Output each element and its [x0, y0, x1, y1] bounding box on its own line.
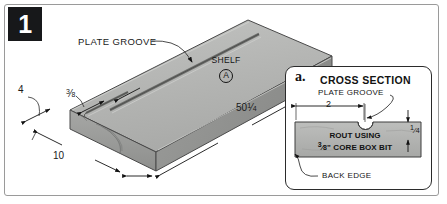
shelf-callout: SHELF A	[205, 56, 247, 83]
length-numerator: 1	[247, 102, 251, 109]
back-edge-label: BACK EDGE	[322, 171, 371, 180]
rout-line-1: ROUT USING	[329, 131, 380, 140]
dimension-label-length: 501⁄4	[236, 97, 257, 115]
rout-instruction: ROUT USING 3⁄8" CORE BOX BIT	[300, 131, 410, 153]
cross-section-plate-groove-label: PLATE GROOVE	[318, 88, 384, 97]
step-number-badge: 1	[8, 7, 42, 41]
bit-numerator: 3	[318, 141, 322, 148]
dimension-label-thickness: 4	[18, 84, 24, 95]
quarter-numerator: 1	[410, 124, 414, 131]
length-whole: 50	[236, 102, 247, 113]
woodworking-step-figure: 1 PLATE GROOVE SHELF A 4 3⁄8 501⁄4 10 a.…	[0, 0, 447, 204]
groove-offset-denominator: 8	[72, 91, 76, 98]
groove-offset-numerator: 3	[66, 88, 70, 95]
cross-section-groove-leader	[365, 95, 393, 122]
dimension-label-width: 10	[53, 150, 64, 161]
quarter-denominator: 4	[416, 127, 420, 134]
cross-section-artwork	[0, 0, 447, 204]
shelf-label: SHELF	[205, 56, 247, 65]
cross-section-quarter-label: 1⁄4	[410, 124, 420, 135]
plate-groove-label: PLATE GROOVE	[78, 36, 157, 47]
length-denominator: 4	[253, 105, 257, 112]
shelf-key-circle: A	[219, 69, 233, 83]
dimension-label-groove-offset: 3⁄8	[66, 83, 75, 101]
cross-section-dimension-2-label: 2	[326, 99, 331, 109]
rout-line-2-rest: " CORE BOX BIT	[327, 143, 392, 152]
